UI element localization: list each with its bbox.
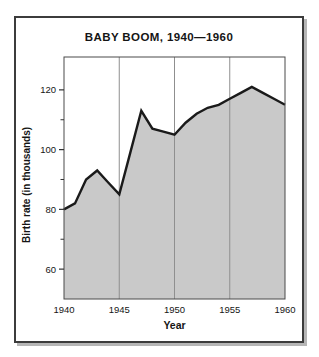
x-tick-label: 1945 xyxy=(109,304,130,315)
x-tick-label: 1940 xyxy=(53,304,74,315)
figure-page: BABY BOOM, 1940—1960 Birth rate (in thou… xyxy=(0,0,319,357)
y-tick-label: 120 xyxy=(40,84,56,95)
x-tick-label: 1950 xyxy=(164,304,185,315)
chart-plot: 120100806019401945195019551960 xyxy=(0,0,319,357)
x-tick-label: 1955 xyxy=(219,304,240,315)
y-tick-label: 100 xyxy=(40,144,56,155)
y-tick-label: 60 xyxy=(45,264,56,275)
x-axis-label: Year xyxy=(64,319,285,331)
y-tick-label: 80 xyxy=(45,204,56,215)
x-tick-label: 1960 xyxy=(274,304,295,315)
